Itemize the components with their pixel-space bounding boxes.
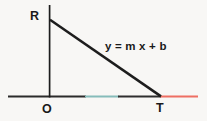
vertex-label-o: O — [42, 103, 52, 116]
equation-label: y = m x + b — [105, 40, 167, 53]
vertex-label-r: R — [30, 10, 39, 23]
hypotenuse-segment — [50, 20, 161, 97]
geometry-diagram: R O T y = m x + b — [0, 0, 207, 121]
vertex-label-t: T — [156, 102, 164, 115]
